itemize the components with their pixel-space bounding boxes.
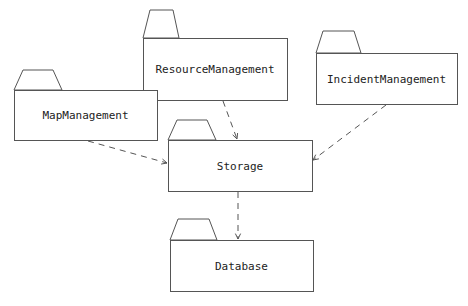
- package-incident[interactable]: IncidentManagement: [316, 31, 458, 105]
- package-diagram: ResourceManagementIncidentManagementMapM…: [0, 0, 468, 306]
- package-label: Storage: [217, 160, 263, 173]
- package-label: IncidentManagement: [327, 73, 446, 86]
- package-label: ResourceManagement: [155, 63, 274, 76]
- package-resource[interactable]: ResourceManagement: [143, 10, 288, 101]
- packages: ResourceManagementIncidentManagementMapM…: [14, 10, 458, 292]
- arrow-head-icon: [161, 159, 167, 164]
- dependency-incident-to-storage: [313, 105, 386, 160]
- dependency-resource-to-storage: [223, 101, 238, 139]
- package-tab: [170, 219, 217, 240]
- package-tab: [316, 31, 361, 53]
- package-database[interactable]: Database: [170, 219, 314, 292]
- package-label: Database: [215, 260, 268, 273]
- arrow-head-icon: [313, 155, 319, 160]
- package-tab: [14, 70, 62, 90]
- dependency-storage-to-database: [235, 192, 240, 239]
- dependency-map-to-storage: [88, 141, 167, 164]
- package-map[interactable]: MapManagement: [14, 70, 158, 141]
- package-tab: [168, 120, 216, 140]
- package-storage[interactable]: Storage: [168, 120, 313, 192]
- package-tab: [143, 10, 179, 38]
- package-label: MapManagement: [42, 109, 128, 122]
